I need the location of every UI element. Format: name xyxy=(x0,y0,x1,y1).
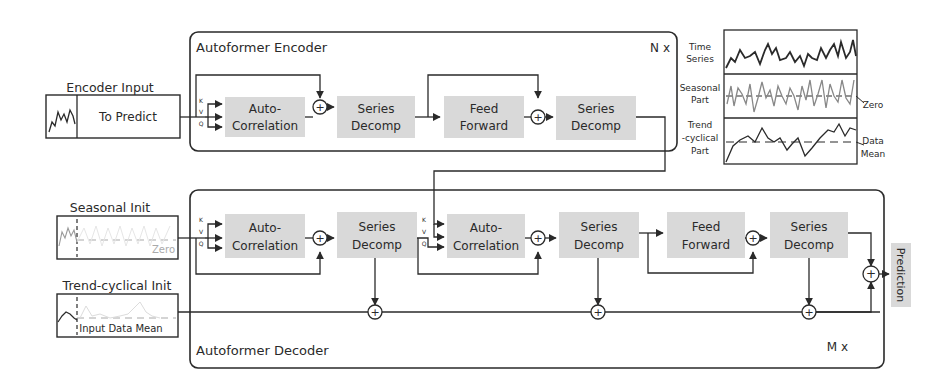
svg-text:Decomp: Decomp xyxy=(351,119,401,133)
trend-add-3: + xyxy=(802,305,816,319)
svg-text:Data: Data xyxy=(862,136,884,146)
svg-text:V: V xyxy=(199,228,204,235)
svg-text:+: + xyxy=(593,306,602,319)
svg-text:Series: Series xyxy=(358,102,395,116)
svg-text:Forward: Forward xyxy=(460,119,508,133)
svg-text:Zero: Zero xyxy=(152,244,175,255)
decoder-series-decomp-2: Series Decomp xyxy=(559,212,639,258)
svg-text:Auto-: Auto- xyxy=(470,221,502,235)
encoder-auto-correlation-block: Auto- Correlation xyxy=(225,97,305,137)
decoder-self-auto-correlation-block: Auto- Correlation xyxy=(225,214,305,258)
svg-text:+: + xyxy=(315,101,324,114)
encoder-repeat: N x xyxy=(650,41,670,55)
svg-text:+: + xyxy=(804,306,813,319)
svg-text:Input Data Mean: Input Data Mean xyxy=(79,323,162,334)
svg-text:Seasonal Init: Seasonal Init xyxy=(70,200,151,215)
svg-text:Q: Q xyxy=(199,240,204,247)
svg-text:Trend-cyclical Init: Trend-cyclical Init xyxy=(62,278,172,293)
encoder-add-2: + xyxy=(531,110,545,124)
trend-add-2: + xyxy=(591,305,605,319)
autoformer-architecture-diagram: Encoder Input To Predict Autoformer Enco… xyxy=(0,0,951,385)
svg-text:Seasonal: Seasonal xyxy=(680,83,721,93)
svg-text:Series: Series xyxy=(686,54,714,64)
svg-text:Correlation: Correlation xyxy=(232,119,298,133)
svg-text:Auto-: Auto- xyxy=(249,221,281,235)
svg-text:-cyclical: -cyclical xyxy=(682,133,718,143)
svg-text:+: + xyxy=(533,111,542,124)
encoder-input-title: Encoder Input xyxy=(66,80,154,95)
decoder-add-2: + xyxy=(531,231,545,245)
enc-value-label: V xyxy=(199,108,204,115)
svg-text:Part: Part xyxy=(691,95,709,105)
to-predict-label: To Predict xyxy=(98,110,157,124)
enc-query-label: Q xyxy=(199,120,204,127)
svg-text:+: + xyxy=(866,267,876,281)
svg-text:Auto-: Auto- xyxy=(249,102,281,116)
svg-text:Series: Series xyxy=(581,220,618,234)
enc-key-label: K xyxy=(199,97,204,104)
svg-text:Series: Series xyxy=(791,220,828,234)
decoder-repeat: M x xyxy=(827,340,848,354)
svg-text:Correlation: Correlation xyxy=(232,239,298,253)
svg-text:Decomp: Decomp xyxy=(574,238,624,252)
trend-add-1: + xyxy=(368,305,382,319)
svg-text:V: V xyxy=(422,228,427,235)
prediction-output: Prediction xyxy=(891,243,911,307)
svg-text:Part: Part xyxy=(691,146,709,156)
svg-text:Decomp: Decomp xyxy=(352,238,402,252)
svg-text:Correlation: Correlation xyxy=(453,239,519,253)
decoder-series-decomp-1: Series Decomp xyxy=(337,212,417,258)
decomposition-legend: Time Series Seasonal Part Zero Trend -cy… xyxy=(680,30,886,164)
trend-cyclical-init-input: Trend-cyclical Init Input Data Mean xyxy=(57,278,178,337)
svg-text:K: K xyxy=(422,216,427,223)
svg-text:Q: Q xyxy=(422,240,427,247)
decoder-title: Autoformer Decoder xyxy=(196,343,329,358)
encoder-add-1: + xyxy=(313,100,327,114)
svg-text:Prediction: Prediction xyxy=(894,248,907,303)
svg-text:K: K xyxy=(199,216,204,223)
svg-text:Decomp: Decomp xyxy=(784,238,834,252)
svg-text:Trend: Trend xyxy=(687,120,713,130)
svg-text:Series: Series xyxy=(578,102,615,116)
svg-text:Decomp: Decomp xyxy=(571,119,621,133)
encoder-title: Autoformer Encoder xyxy=(196,40,328,55)
svg-text:+: + xyxy=(370,306,379,319)
svg-text:+: + xyxy=(533,232,542,245)
svg-text:Zero: Zero xyxy=(863,100,884,110)
svg-text:Feed: Feed xyxy=(470,102,499,116)
svg-text:Time: Time xyxy=(688,42,711,52)
decoder-series-decomp-3: Series Decomp xyxy=(770,212,848,258)
encoder-input: Encoder Input To Predict xyxy=(46,80,180,138)
svg-text:Mean: Mean xyxy=(861,149,886,159)
encoder-feed-forward-block: Feed Forward xyxy=(444,96,524,138)
svg-text:Forward: Forward xyxy=(682,238,730,252)
decoder-feed-forward-block: Feed Forward xyxy=(667,212,745,258)
encoder-series-decomp-1: Series Decomp xyxy=(337,96,415,138)
decoder-add-3: + xyxy=(746,231,760,245)
decoder-cross-auto-correlation-block: Auto- Correlation xyxy=(447,214,525,258)
encoder-series-decomp-2: Series Decomp xyxy=(556,96,636,140)
decoder-add-1: + xyxy=(313,231,327,245)
final-add: + xyxy=(863,266,879,282)
svg-text:+: + xyxy=(748,232,757,245)
svg-text:+: + xyxy=(315,232,324,245)
svg-text:Feed: Feed xyxy=(692,220,721,234)
seasonal-init-input: Seasonal Init Zero xyxy=(57,200,178,259)
svg-text:Series: Series xyxy=(359,220,396,234)
